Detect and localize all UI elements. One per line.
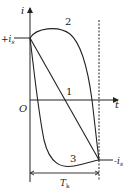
- pos-level-label: +is: [1, 34, 15, 45]
- curve-1: [30, 38, 99, 160]
- axis-x-label: t: [115, 99, 120, 110]
- curve-2: [30, 29, 99, 160]
- origin-label: O: [19, 103, 27, 114]
- period-label: Tk: [60, 178, 70, 189]
- curve-1-label: 1: [66, 86, 72, 97]
- curve-2-label: 2: [65, 16, 71, 27]
- curve-3-label: 3: [70, 153, 76, 164]
- neg-level-label: -is: [114, 156, 123, 167]
- current-waveform-diagram: i t O +is -is Tk 1 2 3: [0, 0, 133, 190]
- axis-y-label: i: [21, 5, 24, 16]
